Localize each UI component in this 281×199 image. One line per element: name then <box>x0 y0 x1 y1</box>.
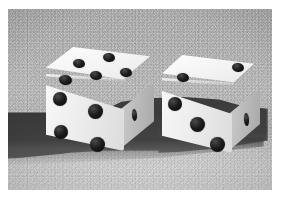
right-die-top-face <box>162 55 254 99</box>
left-die-front-pip-3 <box>54 125 68 139</box>
right-die-front-pip-3 <box>210 137 225 152</box>
left-die <box>46 47 156 157</box>
photograph <box>8 9 272 190</box>
right-die <box>160 55 262 159</box>
photo-frame <box>0 0 281 199</box>
right-die-front-pip-2 <box>190 117 205 132</box>
left-die-front-pip-4 <box>90 137 105 152</box>
left-die-front-pip-2 <box>88 104 103 119</box>
right-die-front-pip-1 <box>168 97 182 111</box>
left-die-front-pip-1 <box>53 92 67 106</box>
left-die-front-face <box>46 77 124 151</box>
